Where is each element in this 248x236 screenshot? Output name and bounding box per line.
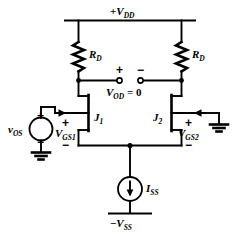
transistor-left-label: J1 [94, 112, 103, 123]
offset-source-plus-sign: + [37, 110, 44, 122]
vdd-rail-group [64, 21, 196, 43]
vdd-label-sub: DD [124, 11, 135, 20]
jfet-differential-amplifier-figure: +VDD RD RD + − VOD = 0 J1 J2 vOS + − + V… [0, 0, 248, 236]
iss-sub: SS [150, 188, 158, 197]
vod-sub: OD [113, 92, 124, 101]
output-voltage-label: VOD = 0 [106, 87, 141, 98]
current-source-arrowhead-down-icon [127, 190, 134, 197]
output-terminal-negative-icon [138, 78, 143, 83]
tail-node-group [79, 143, 182, 177]
ground-left-group [32, 153, 50, 160]
offset-source-label: vOS [8, 124, 22, 135]
offset-source-minus-sign: − [37, 136, 44, 148]
j2-var: J [153, 111, 159, 123]
vdd-label-var: V [116, 5, 123, 17]
vdd-rail-label: +VDD [110, 6, 134, 17]
vss-label-var: V [116, 217, 123, 229]
rd-right-sub: D [199, 54, 204, 63]
current-source-group [118, 177, 142, 213]
vss-label-sub: SS [124, 223, 132, 232]
j1-var: J [94, 111, 100, 123]
resistor-left-zigzag [73, 42, 84, 72]
current-source-label: ISS [146, 183, 159, 194]
output-terminal-positive-icon [117, 78, 122, 83]
output-minus-sign: − [137, 64, 144, 76]
resistor-left-group [73, 42, 84, 81]
resistor-left-label: RD [89, 49, 102, 60]
vgs2-minus-sign: − [185, 139, 192, 151]
output-plus-sign: + [116, 64, 123, 76]
j2-gate-arrowhead [194, 109, 202, 117]
vss-rail-label: −VSS [110, 218, 132, 229]
rd-left-sub: D [96, 54, 101, 63]
j2-sub: 2 [159, 117, 163, 126]
vgs1-minus-sign: − [62, 139, 69, 151]
j1-sub: 1 [100, 117, 104, 126]
resistor-right-label: RD [192, 49, 205, 60]
resistor-right-group [176, 42, 187, 81]
vos-sub: OS [13, 129, 23, 138]
ground-right-group [205, 113, 228, 132]
transistor-right-label: J2 [153, 112, 162, 123]
resistor-right-zigzag [176, 42, 187, 72]
vod-value: 0 [136, 86, 142, 98]
